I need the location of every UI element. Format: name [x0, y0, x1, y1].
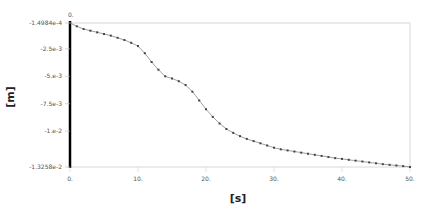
data-point [389, 164, 391, 166]
data-point [300, 152, 302, 154]
data-point [225, 128, 227, 130]
data-point [185, 84, 187, 86]
y-axis-ticks: -1.4984e-4-2.5e-3-5.e-3-7.5e-3-1.e-2-1.3… [29, 19, 70, 170]
plot-frame [70, 23, 410, 167]
x-tick-label: 30. [269, 175, 279, 182]
data-point [178, 80, 180, 82]
y-axis-label: [m] [4, 86, 17, 108]
data-point [83, 28, 85, 30]
data-point [375, 162, 377, 164]
data-point [334, 157, 336, 159]
y-tick-label: -1.3258e-2 [29, 163, 62, 170]
x-axis-label: [s] [230, 192, 247, 205]
data-point [259, 142, 261, 144]
data-point [171, 77, 173, 79]
data-point [137, 45, 139, 47]
data-point [123, 39, 125, 41]
data-point [314, 154, 316, 156]
data-point [151, 61, 153, 63]
data-point [130, 42, 132, 44]
data-point [164, 75, 166, 77]
x-tick-label: 10. [133, 175, 143, 182]
data-point [253, 140, 255, 142]
x-tick-label: 50. [405, 175, 415, 182]
x-tick-label: 20. [201, 175, 211, 182]
x-axis-ticks: 0.10.20.30.40.50. [67, 167, 415, 182]
y-tick-label: -7.5e-3 [41, 100, 63, 107]
data-point [103, 33, 105, 35]
y-tick-label: -1.e-2 [44, 127, 62, 134]
data-point [355, 160, 357, 162]
data-point [280, 148, 282, 150]
data-point [266, 144, 268, 146]
x-tick-label: 0. [67, 175, 73, 182]
data-point [382, 163, 384, 165]
data-point [239, 135, 241, 137]
data-point [89, 30, 91, 32]
data-point [205, 108, 207, 110]
data-point [232, 132, 234, 134]
data-point [117, 37, 119, 39]
data-point [287, 149, 289, 151]
data-point [402, 165, 404, 167]
data-line [70, 23, 410, 167]
data-point [273, 147, 275, 149]
y-tick-label: -5.e-3 [44, 72, 62, 79]
data-point [69, 22, 71, 24]
data-point [198, 99, 200, 101]
data-point [395, 164, 397, 166]
data-point [219, 123, 221, 125]
data-point [409, 166, 411, 168]
data-point [327, 156, 329, 158]
y-tick-label: -1.4984e-4 [29, 19, 62, 26]
data-point [144, 52, 146, 54]
line-chart: -1.4984e-4-2.5e-3-5.e-3-7.5e-3-1.e-2-1.3… [0, 0, 423, 212]
data-point [246, 138, 248, 140]
data-point [191, 91, 193, 93]
data-markers [69, 22, 411, 168]
data-point [307, 153, 309, 155]
data-point [321, 155, 323, 157]
y-tick-label: -2.5e-3 [41, 45, 63, 52]
origin-label: 0. [68, 11, 74, 18]
data-point [293, 151, 295, 153]
data-point [157, 69, 159, 71]
data-point [361, 161, 363, 163]
data-point [368, 161, 370, 163]
data-point [348, 159, 350, 161]
data-point [96, 31, 98, 33]
data-point [212, 116, 214, 118]
data-point [341, 158, 343, 160]
data-point [110, 35, 112, 37]
data-point [76, 25, 78, 27]
x-tick-label: 40. [337, 175, 347, 182]
